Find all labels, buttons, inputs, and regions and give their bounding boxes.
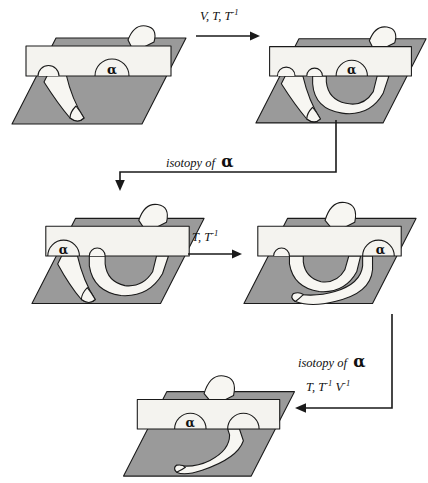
- arrow-middle-label: T, T-1 T, T-1: [192, 228, 218, 245]
- panel-top-left: α: [8, 18, 190, 130]
- arrow-isotopy-lower-label-line2: T, T-1 V-1 T, T-1 V-1: [306, 378, 350, 395]
- panel-middle-left-graphic: α: [28, 198, 208, 310]
- panel-bottom-graphic: α: [118, 372, 300, 482]
- alpha-label: α: [186, 415, 196, 430]
- arrow-middle-line: [188, 248, 244, 262]
- figure-canvas: α α: [0, 0, 428, 483]
- panel-middle-left: α: [28, 198, 208, 310]
- panel-top-right: α: [252, 18, 428, 130]
- arrow-top-label: V, T, T-1 V, T, T-1: [200, 7, 239, 24]
- arrowhead: [115, 180, 125, 191]
- panel-top-right-graphic: α: [252, 18, 428, 130]
- arrowhead: [250, 32, 260, 41]
- alpha-label: α: [59, 242, 69, 257]
- alpha-label: α: [347, 63, 357, 77]
- alpha-label: α: [107, 62, 117, 77]
- arrowhead: [295, 403, 306, 413]
- arrowhead: [232, 250, 242, 259]
- arrow-isotopy-upper-label: isotopy of α isotopy of α: [166, 152, 234, 171]
- panel-middle-right: α: [240, 198, 420, 310]
- alpha-label: α: [376, 242, 386, 257]
- arrow-isotopy-lower-label-line1: isotopy of α isotopy of α: [298, 352, 366, 371]
- arrow-top-line: [196, 30, 262, 44]
- panel-top-left-graphic: α: [8, 18, 190, 130]
- panel-middle-right-graphic: α: [240, 198, 420, 310]
- panel-bottom: α: [118, 372, 300, 482]
